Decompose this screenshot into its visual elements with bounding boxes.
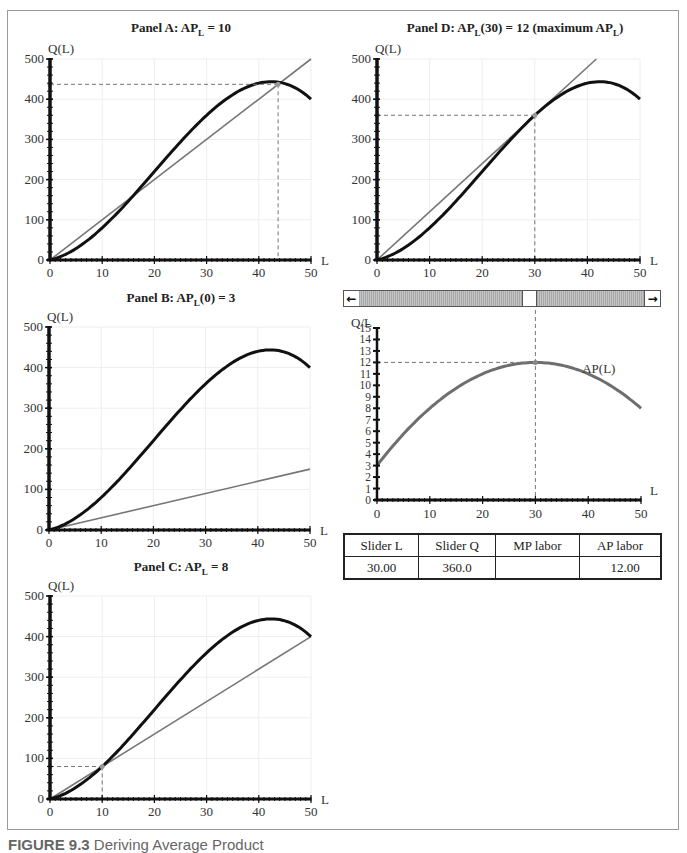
x-tick-label: 50 — [304, 535, 317, 550]
x-tick-label: 30 — [528, 265, 541, 280]
y-tick-label: 0 — [365, 494, 371, 506]
y-tick-label: 200 — [24, 441, 44, 456]
panel-b-chart: 010203040500100200300400500Q(L)L — [24, 309, 329, 550]
x-tick-label: 0 — [374, 506, 381, 521]
x-tick-label: 0 — [374, 265, 381, 280]
x-tick-label: 0 — [46, 535, 53, 550]
y-axis-label: Q(L) — [375, 41, 401, 56]
y-tick-label: 400 — [25, 629, 45, 644]
ray-line — [377, 59, 596, 260]
ap-curve-label: AP(L) — [582, 361, 615, 376]
slider-thumb[interactable] — [522, 291, 537, 306]
intersection-point — [276, 82, 281, 87]
slider-left-button[interactable]: ← — [344, 291, 360, 306]
y-axis-label: Q/L — [351, 315, 372, 330]
header-slider-l: Slider L — [344, 534, 419, 557]
y-tick-label: 3 — [365, 460, 371, 472]
x-tick-label: 30 — [529, 506, 542, 521]
y-tick-label: 100 — [24, 481, 44, 496]
x-tick-label: 50 — [305, 804, 318, 819]
x-tick-label: 20 — [148, 804, 161, 819]
x-tick-label: 10 — [95, 535, 108, 550]
ray-line — [49, 469, 310, 530]
y-tick-label: 500 — [352, 51, 372, 66]
ap-max-point — [533, 360, 538, 365]
x-tick-label: 10 — [423, 265, 436, 280]
y-tick-label: 11 — [360, 368, 371, 380]
intersection-point — [100, 764, 105, 769]
y-tick-label: 0 — [365, 252, 372, 267]
x-axis-label: L — [650, 253, 658, 268]
x-tick-label: 50 — [305, 265, 318, 280]
y-tick-label: 9 — [365, 391, 371, 403]
y-tick-label: 400 — [25, 91, 45, 106]
y-tick-label: 100 — [352, 212, 372, 227]
y-tick-label: 0 — [38, 791, 45, 806]
y-tick-label: 10 — [360, 379, 372, 391]
y-tick-label: 300 — [24, 400, 44, 415]
value-mp-labor — [495, 557, 579, 580]
x-tick-label: 40 — [252, 265, 265, 280]
y-tick-label: 13 — [360, 345, 372, 357]
y-tick-label: 100 — [25, 750, 45, 765]
x-tick-label: 20 — [476, 265, 489, 280]
x-tick-label: 50 — [635, 506, 648, 521]
y-tick-label: 0 — [38, 252, 45, 267]
header-slider-q: Slider Q — [419, 534, 495, 557]
arrow-right-icon: → — [647, 292, 657, 306]
caption-label: FIGURE 9.3 — [8, 836, 90, 853]
labor-slider[interactable]: ← → — [343, 290, 661, 307]
x-tick-label: 50 — [634, 265, 647, 280]
y-tick-label: 400 — [352, 91, 372, 106]
x-tick-label: 20 — [148, 265, 161, 280]
header-ap-labor: AP labor — [580, 534, 661, 557]
y-tick-label: 200 — [25, 710, 45, 725]
q-curve — [50, 619, 311, 799]
y-tick-label: 0 — [37, 522, 44, 537]
y-axis-label: Q(L) — [47, 309, 73, 324]
panel-c-chart: 010203040500100200300400500Q(L)L — [25, 578, 330, 819]
y-tick-label: 7 — [365, 414, 371, 426]
ray-line — [50, 59, 311, 260]
x-tick-label: 20 — [147, 535, 160, 550]
q-curve — [377, 82, 640, 260]
y-tick-label: 1 — [365, 483, 371, 495]
y-axis-label: Q(L) — [48, 41, 74, 56]
x-tick-label: 30 — [200, 804, 213, 819]
x-axis-label: L — [320, 523, 328, 538]
x-tick-label: 30 — [199, 535, 212, 550]
slider-track[interactable] — [359, 291, 645, 306]
x-tick-label: 0 — [47, 265, 54, 280]
slider-right-button[interactable]: → — [644, 291, 660, 306]
table-header-row: Slider L Slider Q MP labor AP labor — [344, 534, 661, 557]
x-axis-label: L — [321, 792, 329, 807]
x-tick-label: 40 — [251, 535, 264, 550]
ap-chart-chart: AP(L)010203040500123456789101112131415Q/… — [351, 303, 658, 521]
panel-d-chart: 010203040500100200300400500Q(L)L — [352, 41, 659, 280]
y-tick-label: 200 — [352, 172, 372, 187]
x-tick-label: 0 — [47, 804, 54, 819]
y-tick-label: 300 — [25, 131, 45, 146]
x-tick-label: 40 — [252, 804, 265, 819]
x-tick-label: 10 — [423, 506, 436, 521]
header-mp-labor: MP labor — [495, 534, 579, 557]
y-tick-label: 300 — [352, 131, 372, 146]
y-tick-label: 100 — [25, 212, 45, 227]
y-tick-label: 12 — [360, 356, 372, 368]
y-tick-label: 300 — [25, 669, 45, 684]
x-tick-label: 40 — [581, 265, 594, 280]
y-tick-label: 6 — [365, 425, 371, 437]
x-tick-label: 10 — [96, 804, 109, 819]
caption-text: Deriving Average Product — [94, 836, 264, 853]
y-tick-label: 14 — [360, 333, 372, 345]
y-tick-label: 4 — [365, 448, 371, 460]
y-tick-label: 2 — [365, 471, 371, 483]
x-tick-label: 40 — [582, 506, 595, 521]
x-axis-label: L — [321, 253, 329, 268]
arrow-left-icon: ← — [346, 292, 356, 306]
q-curve — [49, 350, 310, 530]
y-tick-label: 500 — [24, 319, 44, 334]
figure-caption: FIGURE 9.3 Deriving Average Product — [8, 836, 264, 853]
value-slider-l: 30.00 — [344, 557, 419, 580]
